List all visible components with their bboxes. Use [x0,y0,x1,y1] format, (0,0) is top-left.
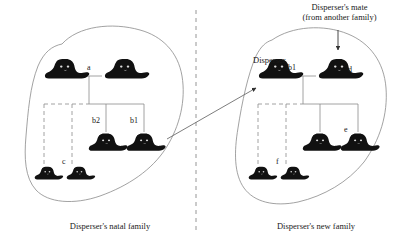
caption-left-family: Disperser's natal family [48,222,172,232]
animal-right-offspring-1 [303,134,342,151]
animal-left-sire [45,59,89,79]
label-disperser: Disperser [253,56,286,66]
animal-right-mate [319,59,363,79]
label-individual-c: c [62,158,66,167]
label-link-a: a [87,64,91,73]
animal-left-juvenile-1 [35,167,64,180]
caption-right-family: Disperser's new family [254,222,378,232]
animal-left-juvenile-2 [67,167,96,180]
animal-right-juvenile-2 [281,167,310,180]
animal-left-dam [105,59,149,79]
label-individual-f: f [276,158,279,167]
label-individual-b1: b1 [130,117,138,126]
label-individual-e: e [344,126,348,135]
diagram-canvas [0,0,408,246]
animal-right-juvenile-1 [249,167,278,180]
label-individual-d: d [348,66,352,75]
label-individual-b2: b2 [92,117,100,126]
animal-right-offspring-e [341,134,380,151]
label-individual-b1-new: b1 [288,64,296,73]
label-disperser-mate-line2: (from another family) [292,13,387,23]
diagram-figure: a b2 b1 c Disperser b1 d e f Disperser's… [0,0,408,246]
animal-left-b1 [127,134,166,151]
animal-left-b2 [89,134,128,151]
